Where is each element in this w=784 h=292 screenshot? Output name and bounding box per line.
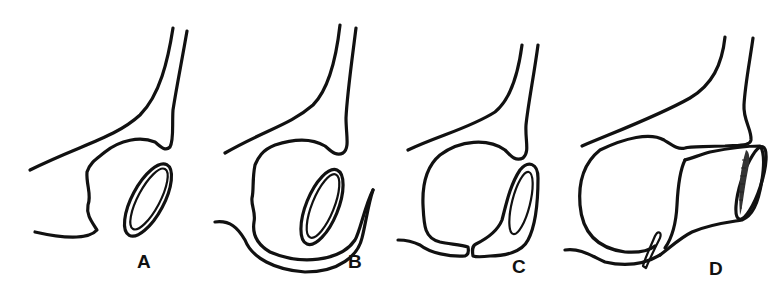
panel-label-d: D [709, 259, 723, 278]
panel-b-drawing [215, 25, 373, 272]
panel-label-c: C [512, 257, 526, 276]
anatomical-sequence-diagram [0, 0, 784, 292]
panel-a-drawing [30, 28, 187, 243]
panel-label-b: B [348, 252, 362, 271]
panel-c-drawing [398, 45, 538, 257]
shaded-opening [739, 150, 749, 215]
panel-d-drawing [565, 37, 772, 268]
panel-label-a: A [137, 252, 151, 271]
